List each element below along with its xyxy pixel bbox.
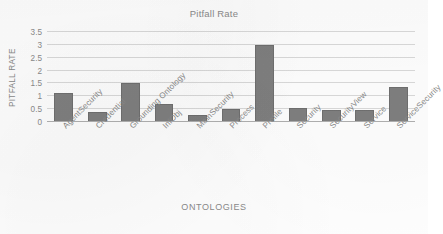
y-tick-label: 3 [37, 40, 42, 49]
y-tick-label: 1.5 [31, 79, 42, 88]
y-axis-title: PITFALL RATE [6, 32, 19, 124]
bar-series [47, 32, 415, 122]
x-axis-tick-labels: AgentSecurityCredentialGrounding Ontolog… [47, 124, 415, 192]
y-tick-label: 1 [37, 92, 42, 101]
bar[interactable] [255, 45, 274, 122]
y-axis-tick-labels: 00.511.522.533.5 [22, 26, 44, 130]
plot-area [47, 32, 415, 122]
y-tick-label: 2.5 [31, 53, 42, 62]
y-tick-label: 0 [37, 118, 42, 127]
x-axis-title: ONTOLOGIES [0, 202, 428, 212]
y-tick-label: 2 [37, 66, 42, 75]
y-tick-label: 0.5 [31, 105, 42, 114]
y-tick-label: 3.5 [31, 28, 42, 37]
chart-title: Pitfall Rate [0, 8, 428, 19]
